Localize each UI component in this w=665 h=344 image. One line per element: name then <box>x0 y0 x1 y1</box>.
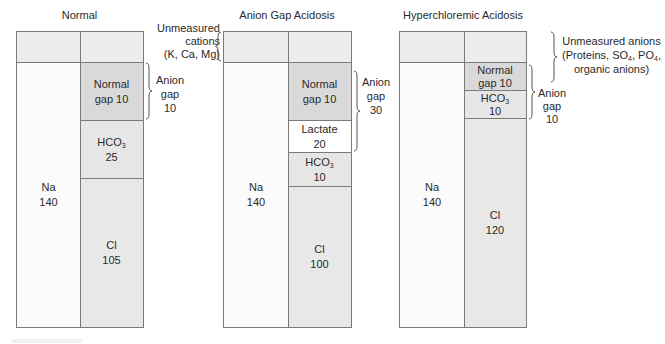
lactate-cell: Lactate 20 <box>288 121 351 153</box>
gamblegram-normal: Na 140 Normal gap 10 HCO3 25 Cl 105 <box>16 31 144 328</box>
anion-gap-annotation-hca: Anion gap 10 <box>534 87 570 126</box>
cl-value: 105 <box>102 253 120 268</box>
unmeasured-cations-cell <box>17 32 80 63</box>
normal-gap-cell: Normal gap 10 <box>288 63 351 121</box>
na-value: 140 <box>39 195 57 210</box>
na-cell: Na 140 <box>400 63 464 327</box>
unmeasured-cations-cell <box>224 32 288 63</box>
hco3-label: HCO3 <box>305 155 333 170</box>
anion-gap-annotation-normal: Anion gap 10 <box>152 73 188 115</box>
normal-gap-label: Normal <box>302 77 337 92</box>
normal-gap-value: gap 10 <box>303 92 337 107</box>
lactate-value: 20 <box>313 137 325 152</box>
cl-value: 100 <box>310 257 328 272</box>
hco3-label: HCO3 <box>481 92 509 105</box>
hco3-cell: HCO3 10 <box>464 91 526 119</box>
normal-gap-cell: Normal gap 10 <box>464 63 526 91</box>
gamblegram-anion-gap-acidosis: Na 140 Normal gap 10 Lactate 20 HCO3 10 … <box>223 31 352 328</box>
cl-label: Cl <box>490 208 500 223</box>
na-value: 140 <box>423 195 441 210</box>
normal-gap-cell: Normal gap 10 <box>80 63 143 121</box>
cl-cell: Cl 120 <box>464 119 526 327</box>
hco3-label: HCO3 <box>97 135 125 150</box>
na-cell: Na 140 <box>224 63 288 327</box>
column-divider <box>288 32 289 327</box>
gamblegram-hyperchloremic-acidosis: Na 140 Normal gap 10 HCO3 10 Cl 120 <box>399 31 527 328</box>
cl-cell: Cl 105 <box>80 179 143 327</box>
hco3-value: 10 <box>313 170 325 185</box>
unmeasured-anions-label: Unmeasured anions (Proteins, SO4, PO4, o… <box>558 34 665 76</box>
panel-title-normal: Normal <box>16 9 143 21</box>
unmeasured-anions-cell <box>464 32 526 63</box>
hco3-cell: HCO3 10 <box>288 153 351 187</box>
unmeasured-anions-brace <box>550 31 558 83</box>
unmeasured-anions-cell <box>288 32 351 63</box>
na-label: Na <box>425 180 439 195</box>
unmeasured-cations-brace <box>215 31 222 62</box>
unmeasured-cations-label: Unmeasured cations (K, Ca, Mg) <box>150 22 220 61</box>
column-divider <box>80 32 81 327</box>
hco3-value: 25 <box>105 150 117 165</box>
na-value: 140 <box>247 195 265 210</box>
anion-gap-annotation-aga: Anion gap 30 <box>358 75 394 117</box>
panel-title-anion-gap-acidosis: Anion Gap Acidosis <box>223 9 351 21</box>
cl-label: Cl <box>106 238 116 253</box>
cl-cell: Cl 100 <box>288 187 351 327</box>
unmeasured-cations-cell <box>400 32 464 63</box>
normal-gap-label: Normal <box>477 64 512 77</box>
normal-gap-value: gap 10 <box>95 92 129 107</box>
figure-label-remnant <box>12 339 82 343</box>
unmeasured-anions-cell <box>80 32 143 63</box>
normal-gap-label: Normal <box>94 77 129 92</box>
na-label: Na <box>249 180 263 195</box>
hco3-cell: HCO3 25 <box>80 121 143 179</box>
normal-gap-value: gap 10 <box>478 77 512 90</box>
panel-title-hyperchloremic-acidosis: Hyperchloremic Acidosis <box>390 9 536 21</box>
lactate-label: Lactate <box>301 122 337 137</box>
hco3-value: 10 <box>489 105 501 118</box>
cl-label: Cl <box>314 242 324 257</box>
na-label: Na <box>41 180 55 195</box>
column-divider <box>464 32 465 327</box>
cl-value: 120 <box>486 223 504 238</box>
na-cell: Na 140 <box>17 63 80 327</box>
